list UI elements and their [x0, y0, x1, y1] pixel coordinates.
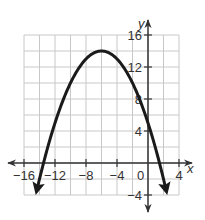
y-tick-label: −4 — [127, 188, 142, 203]
x-tick-label: 4 — [175, 168, 182, 183]
x-tick-label: −4 — [110, 168, 125, 183]
x-tick-label: −16 — [13, 168, 35, 183]
y-tick-label: 12 — [128, 60, 142, 75]
parabola-chart: −16−12−8−44−4481216 x y 0 — [0, 0, 205, 220]
y-axis-label: y — [137, 16, 146, 31]
x-tick-label: −8 — [79, 168, 94, 183]
x-tick-label: −12 — [44, 168, 66, 183]
x-axis-label: x — [186, 161, 194, 176]
origin-label: 0 — [137, 168, 144, 183]
y-tick-label: 4 — [135, 124, 142, 139]
